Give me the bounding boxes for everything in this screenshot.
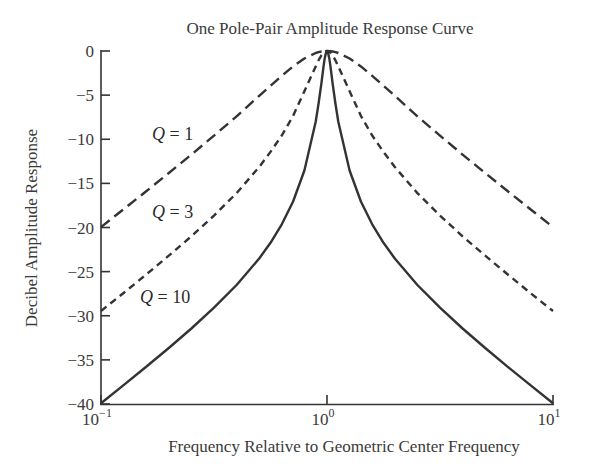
chart-title: One Pole-Pair Amplitude Response Curve <box>186 19 473 38</box>
y-axis-label: Decibel Amplitude Response <box>22 129 41 327</box>
y-tick-label: −15 <box>67 174 94 193</box>
x-ticks: 10−1100101 <box>82 395 560 429</box>
curve-labels: Q = 1Q = 3Q = 10 <box>140 124 193 307</box>
y-tick-label: −10 <box>67 130 94 149</box>
curves <box>101 51 553 403</box>
x-tick-label: 100 <box>312 406 335 429</box>
y-tick-label: 0 <box>86 42 95 61</box>
y-tick-label: −20 <box>67 219 94 238</box>
y-tick-label: −35 <box>67 351 94 370</box>
curve-label: Q = 1 <box>152 124 193 144</box>
amplitude-response-chart: One Pole-Pair Amplitude Response Curve 0… <box>0 0 589 474</box>
x-axis-label: Frequency Relative to Geometric Center F… <box>168 437 520 456</box>
curve-label: Q = 10 <box>140 287 190 307</box>
curve-label: Q = 3 <box>152 202 193 222</box>
y-ticks: 0−5−10−15−20−25−30−35−40 <box>67 42 110 414</box>
curve-q3 <box>101 51 553 311</box>
x-tick-label: 101 <box>538 406 561 429</box>
x-tick-label: 10−1 <box>82 406 112 429</box>
y-tick-label: −25 <box>67 263 94 282</box>
curve-q10 <box>101 51 553 403</box>
y-tick-label: −30 <box>67 307 94 326</box>
y-tick-label: −5 <box>76 86 94 105</box>
